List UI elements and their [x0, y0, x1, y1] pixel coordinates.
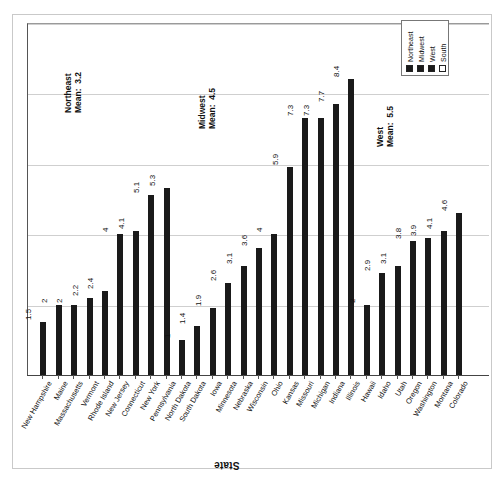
- bar-value-label: 2: [41, 298, 49, 302]
- bar-value-label: 3.9: [410, 225, 418, 236]
- bar-slot: 5.1: [144, 24, 159, 375]
- bar[interactable]: [287, 167, 293, 375]
- bar-slot: 4.6: [452, 24, 467, 375]
- bar-value-label: 4.6: [441, 200, 449, 211]
- bar[interactable]: [318, 118, 324, 375]
- legend-swatch: [428, 65, 435, 72]
- bar-value-label: 2: [56, 298, 64, 302]
- bar[interactable]: [425, 238, 431, 375]
- bar-slot: 8.4: [344, 24, 359, 375]
- bar-value-label: 2.4: [87, 277, 95, 288]
- bar-value-label: 4: [102, 228, 110, 232]
- bar-slot: 4.1: [129, 24, 144, 375]
- x-axis-title: State: [214, 460, 239, 471]
- bar-slot: 3.1: [391, 24, 406, 375]
- bar-value-label: 3.1: [226, 253, 234, 264]
- legend-swatch: [406, 65, 413, 72]
- bar[interactable]: [395, 266, 401, 375]
- bar-value-label: 7.7: [318, 91, 326, 102]
- bar-slot: 1.5: [36, 24, 51, 375]
- bar-value-label: 5.1: [133, 182, 141, 193]
- bar[interactable]: [333, 104, 339, 375]
- bar-value-label: 2.2: [72, 284, 80, 295]
- bar-value-label: 4: [256, 228, 264, 232]
- bar-value-label: 3.8: [395, 228, 403, 239]
- bar-slot: 2.4: [98, 24, 113, 375]
- bar-slot: 3.9: [421, 24, 436, 375]
- bar-slot: 4: [113, 24, 128, 375]
- legend-label: Midwest: [418, 36, 425, 62]
- bar-value-label: 8.4: [333, 66, 341, 77]
- bar-value-label: 4.1: [426, 218, 434, 229]
- bar-value-label: 7.3: [287, 105, 295, 116]
- bar-slot: 7.3: [298, 24, 313, 375]
- bar-slot: 2: [360, 24, 375, 375]
- bar[interactable]: [164, 188, 170, 375]
- axis-tick: [42, 375, 43, 379]
- northeast-mean: Northeast Mean: 3.2: [63, 72, 83, 113]
- bar-value-label: 5.9: [272, 154, 280, 165]
- chart-figure: 1.5222.22.444.15.15.311.41.92.63.13.645.…: [0, 0, 504, 495]
- bar[interactable]: [40, 322, 46, 375]
- bar-slot: 1.9: [206, 24, 221, 375]
- bar-value-label: 1: [164, 333, 172, 337]
- bar[interactable]: [410, 241, 416, 375]
- bar-value-label: 2.6: [210, 270, 218, 281]
- bar-value-label: 1.9: [195, 295, 203, 306]
- bar-slot: 2.9: [375, 24, 390, 375]
- bar[interactable]: [225, 283, 231, 375]
- bar-slot: 3.6: [252, 24, 267, 375]
- bar-slot: 3.8: [406, 24, 421, 375]
- bar-slot: 7.3: [314, 24, 329, 375]
- bar-value-label: 3.6: [241, 235, 249, 246]
- bar-value-label: 2: [349, 298, 357, 302]
- bar[interactable]: [348, 79, 354, 375]
- bar-series: 1.5222.22.444.15.15.311.41.92.63.13.645.…: [28, 24, 489, 375]
- bar-value-label: 5.3: [149, 175, 157, 186]
- bar-slot: 2.2: [83, 24, 98, 375]
- bar-slot: 1.4: [190, 24, 205, 375]
- legend[interactable]: NortheastMidwestWestSouth: [401, 20, 449, 76]
- bar-slot: 5.3: [160, 24, 175, 375]
- legend-label: West: [429, 46, 436, 62]
- west-mean: West Mean: 5.5: [375, 106, 395, 147]
- bar[interactable]: [148, 195, 154, 375]
- bar-value-label: 3.1: [380, 253, 388, 264]
- midwest-mean: Midwest Mean: 4.5: [197, 88, 217, 129]
- bar-slot: 3.1: [237, 24, 252, 375]
- legend-swatch: [439, 65, 446, 72]
- bar-slot: 2.6: [221, 24, 236, 375]
- bar-slot: 4: [267, 24, 282, 375]
- legend-swatch: [417, 65, 424, 72]
- bar[interactable]: [302, 118, 308, 375]
- bar-slot: 5.9: [283, 24, 298, 375]
- bar-value-label: 2.9: [364, 260, 372, 271]
- bar-value-label: 1.4: [179, 313, 187, 324]
- bar-value-label: 4.1: [118, 218, 126, 229]
- bar-value-label: 7.3: [303, 105, 311, 116]
- legend-label: Northeast: [407, 32, 414, 62]
- legend-label: South: [440, 44, 447, 62]
- bar-value-label: 1.5: [25, 309, 33, 320]
